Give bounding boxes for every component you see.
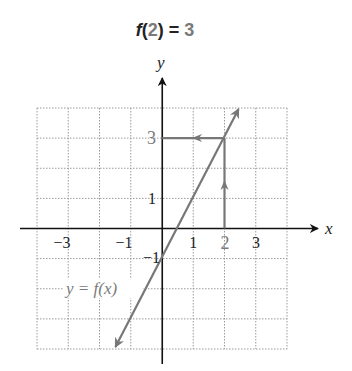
x-tick-label: 3 [252,234,260,251]
y-tick-label-highlighted: 3 [147,128,156,148]
x-tick-label-highlighted: 2 [221,233,230,253]
y-axis-label: y [155,53,165,72]
function-graph: x y −3 −1 1 2 3 3 1 −1 y = f(x) [0,0,352,371]
y-tick-label: 1 [148,190,156,207]
x-tick-label: −1 [115,234,132,251]
x-tick-label: −3 [53,234,70,251]
x-tick-label: 1 [189,234,197,251]
x-axis-label: x [324,219,333,238]
curve-label: y = f(x) [64,279,117,298]
y-tick-label: −1 [143,249,160,266]
